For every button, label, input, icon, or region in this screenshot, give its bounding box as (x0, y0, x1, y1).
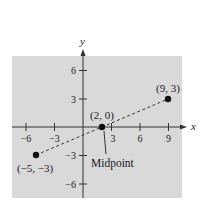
point-label: (−5, −3) (17, 162, 54, 175)
midpoint-callout-label: Midpoint (91, 157, 135, 170)
x-tick-label: −6 (21, 133, 32, 144)
x-axis-label: x (190, 120, 196, 132)
x-tick-label: 9 (166, 133, 171, 144)
point-label: (2, 0) (90, 109, 114, 122)
midpoint-chart: x y −6 −3 3 6 9 6 3 −3 −6 (−5, −3) (2, 0… (0, 0, 207, 204)
point-neg5-neg3 (33, 152, 39, 158)
y-tick-label: −3 (65, 150, 76, 161)
y-tick-label: 3 (71, 94, 76, 105)
point-midpoint (99, 124, 105, 130)
x-axis-arrow-icon (180, 125, 187, 130)
y-tick-label: 6 (71, 65, 76, 76)
x-tick-label: −3 (49, 133, 60, 144)
y-axis-label: y (79, 35, 85, 47)
point-9-3 (165, 96, 171, 102)
point-label: (9, 3) (156, 82, 180, 95)
y-tick-label: −6 (65, 179, 76, 190)
x-tick-label: 6 (138, 133, 143, 144)
x-tick-label: 3 (111, 133, 116, 144)
y-axis-arrow-icon (81, 49, 86, 56)
